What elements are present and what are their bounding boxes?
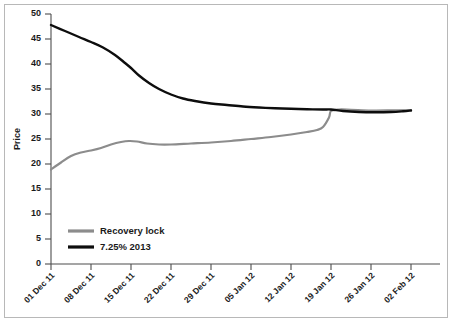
- y-tick-label: 20: [31, 158, 41, 168]
- y-tick-label: 25: [31, 133, 41, 143]
- x-tick-label: 15 Dec 11: [102, 270, 137, 305]
- x-tick-label: 29 Dec 11: [182, 270, 217, 305]
- x-tick-label: 19 Jan 12: [302, 270, 336, 304]
- x-tick-group: 01 Dec 1108 Dec 1115 Dec 1122 Dec 1129 D…: [22, 264, 417, 305]
- y-axis: 05101520253035404550 Price: [12, 8, 51, 268]
- series-line-recovery-lock: [51, 109, 411, 169]
- y-axis-title: Price: [12, 128, 22, 150]
- y-tick-label: 30: [31, 108, 41, 118]
- series-group: [51, 25, 411, 170]
- x-tick-label: 22 Dec 11: [142, 270, 177, 305]
- x-tick-label: 08 Dec 11: [62, 270, 97, 305]
- y-tick-label: 5: [36, 233, 41, 243]
- line-chart: 05101520253035404550 Price 01 Dec 1108 D…: [0, 0, 454, 324]
- y-tick-label: 10: [31, 208, 41, 218]
- y-tick-label: 0: [36, 258, 41, 268]
- chart-container: 05101520253035404550 Price 01 Dec 1108 D…: [0, 0, 454, 324]
- y-tick-label: 35: [31, 83, 41, 93]
- x-tick-label: 26 Jan 12: [342, 270, 376, 304]
- x-tick-label: 02 Feb 12: [382, 270, 417, 305]
- x-tick-label: 05 Jan 12: [222, 270, 256, 304]
- y-tick-label: 45: [31, 33, 41, 43]
- legend-label-0: Recovery lock: [100, 225, 165, 236]
- series-line-7-25-2013: [51, 25, 411, 112]
- x-tick-label: 12 Jan 12: [262, 270, 296, 304]
- y-tick-group: 05101520253035404550: [31, 8, 51, 268]
- y-tick-label: 15: [31, 183, 41, 193]
- chart-legend: Recovery lock7.25% 2013: [68, 225, 165, 252]
- x-tick-label: 01 Dec 11: [22, 270, 57, 305]
- x-axis: 01 Dec 1108 Dec 1115 Dec 1122 Dec 1129 D…: [22, 264, 440, 305]
- y-tick-label: 40: [31, 58, 41, 68]
- legend-label-1: 7.25% 2013: [100, 241, 151, 252]
- y-tick-label: 50: [31, 8, 41, 18]
